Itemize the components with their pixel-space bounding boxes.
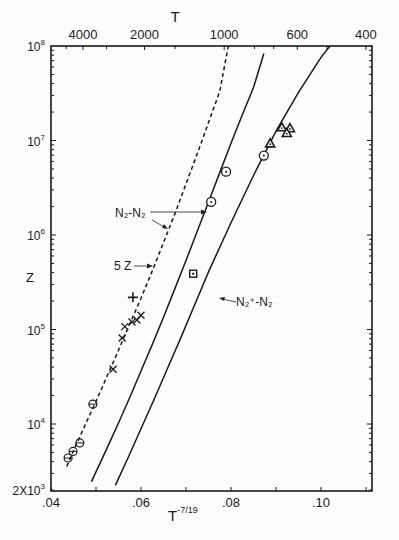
x-axis-title-base: T bbox=[168, 507, 177, 524]
marker-plus bbox=[128, 292, 138, 302]
marker-dot bbox=[192, 273, 194, 275]
y-axis-ticks: 1081071061051042X103 bbox=[13, 38, 372, 498]
arrowhead bbox=[219, 297, 225, 301]
marker-cross bbox=[138, 312, 145, 319]
x-tick-label: .04 bbox=[42, 495, 60, 510]
top-tick-label: 2000 bbox=[130, 27, 159, 42]
marker-dot bbox=[289, 128, 291, 130]
top-tick-label: 1000 bbox=[210, 27, 239, 42]
marker-dot bbox=[281, 127, 283, 129]
y-tick-label: 106 bbox=[27, 227, 45, 243]
y-tick-label: 107 bbox=[27, 133, 45, 149]
top-tick-label: 4000 bbox=[68, 27, 97, 42]
annotation-n2-n2: N₂-N₂ bbox=[115, 206, 146, 220]
arrowhead bbox=[147, 264, 153, 269]
x-tick-label: .10 bbox=[312, 495, 330, 510]
marker-cross bbox=[119, 335, 126, 342]
annotation-n2plus-n2: N₂⁺-N₂ bbox=[236, 295, 273, 309]
curves bbox=[67, 0, 372, 485]
y-tick-label: 105 bbox=[27, 322, 45, 338]
marker-triangle bbox=[277, 123, 286, 131]
top-axis-title: T bbox=[170, 8, 179, 25]
arrowhead bbox=[162, 224, 168, 229]
chart: .04.06.08.10 1081071061051042X103 400020… bbox=[0, 0, 399, 540]
y-tick-label: 108 bbox=[27, 38, 45, 54]
x-axis-title: T-7/19 bbox=[168, 505, 198, 524]
marker-dot bbox=[286, 133, 288, 135]
top-tick-label: 400 bbox=[355, 27, 377, 42]
plot-frame bbox=[51, 46, 372, 491]
y-tick-label: 104 bbox=[27, 416, 45, 432]
y-tick-label: 2X103 bbox=[13, 482, 46, 498]
data-markers bbox=[64, 123, 294, 462]
annotation-5z: 5 Z bbox=[114, 259, 131, 273]
marker-dot bbox=[210, 201, 212, 203]
x-tick-label: .06 bbox=[132, 495, 150, 510]
marker-dot bbox=[263, 155, 265, 157]
x-tick-label: .08 bbox=[222, 495, 240, 510]
marker-triangle bbox=[266, 139, 275, 147]
annotations: N₂-N₂ 5 Z N₂⁺-N₂ bbox=[114, 206, 273, 309]
curve-5z-dashed bbox=[67, 46, 229, 467]
marker-dot bbox=[225, 171, 227, 173]
marker-dot bbox=[269, 143, 271, 145]
x-axis-title-exp: -7/19 bbox=[177, 505, 198, 515]
top-tick-label: 600 bbox=[286, 27, 308, 42]
marker-cross bbox=[121, 323, 128, 330]
plot-border bbox=[51, 46, 372, 491]
y-axis-title: Z bbox=[26, 270, 34, 285]
curve-n2plus-n2 bbox=[115, 0, 372, 485]
